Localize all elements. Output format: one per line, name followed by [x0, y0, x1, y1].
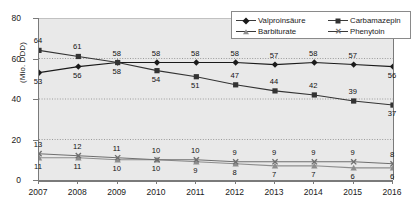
- data-point-label: 13: [25, 141, 51, 149]
- legend-row-1: Valproinsäure Carbamazepin: [236, 15, 406, 26]
- data-point-label: 42: [300, 82, 326, 90]
- data-point-marker: [194, 74, 199, 79]
- series-line-valproinsaure: [39, 63, 393, 73]
- data-point-marker: [350, 61, 356, 67]
- data-point-marker: [115, 60, 120, 65]
- data-point-label: 61: [64, 43, 90, 51]
- data-point-label: 58: [104, 50, 130, 58]
- data-point-label: 44: [261, 78, 287, 86]
- data-point-marker: [193, 59, 199, 65]
- x-axis-tick-mark: [117, 180, 118, 184]
- data-point-label: 47: [222, 72, 248, 80]
- x-axis-tick-label: 2007: [18, 187, 58, 197]
- data-point-label: 39: [340, 88, 366, 96]
- y-axis-tick-label: 60: [0, 55, 21, 63]
- legend-item-carbamazepin[interactable]: Carbamazepin: [328, 15, 401, 26]
- data-point-label: 9: [261, 149, 287, 157]
- data-point-marker: [390, 102, 393, 107]
- chart-legend: Valproinsäure Carbamazepin Barbiturate ✕: [231, 11, 411, 39]
- x-axis-tick-mark: [274, 180, 275, 184]
- x-axis-tick-label: 2014: [293, 187, 333, 197]
- data-point-label: 53: [25, 78, 51, 86]
- x-axis-tick-mark: [195, 180, 196, 184]
- legend-item-phenytoin[interactable]: ✕ Phenytoin: [328, 26, 385, 37]
- data-point-label: 9: [340, 149, 366, 157]
- diamond-marker-icon: [236, 16, 256, 25]
- y-axis-tick-label: 40: [0, 95, 21, 103]
- data-point-label: 58: [104, 68, 130, 76]
- data-point-label: 51: [182, 82, 208, 90]
- data-point-label: 64: [25, 37, 51, 45]
- data-point-label: 10: [104, 165, 130, 173]
- data-point-marker: [39, 48, 42, 53]
- data-point-marker: [154, 68, 159, 73]
- data-point-marker: [75, 63, 81, 69]
- data-point-marker: [76, 54, 81, 59]
- x-axis-tick-label: 2012: [215, 187, 255, 197]
- data-point-label: 10: [143, 165, 169, 173]
- x-axis-tick-label: 2016: [372, 187, 412, 197]
- data-point-label: 8: [379, 151, 405, 159]
- x-axis-tick-label: 2013: [254, 187, 294, 197]
- x-axis-tick-label: 2015: [333, 187, 373, 197]
- data-point-label: 11: [25, 163, 51, 171]
- legend-label-barbiturate: Barbiturate: [256, 27, 296, 36]
- chart-container: (Mio. DDD) 020406080 2007200820092010201…: [0, 0, 416, 202]
- data-point-label: 10: [182, 147, 208, 155]
- data-point-label: 58: [182, 50, 208, 58]
- data-point-label: 37: [379, 110, 405, 118]
- data-point-label: 54: [143, 76, 169, 84]
- data-point-label: 56: [64, 72, 90, 80]
- x-marker-icon: ✕: [328, 27, 348, 36]
- data-point-marker: [232, 59, 238, 65]
- y-axis-tick-label: 20: [0, 136, 21, 144]
- data-point-label: 9: [300, 149, 326, 157]
- x-axis-tick-label: 2011: [175, 187, 215, 197]
- data-point-label: 12: [64, 143, 90, 151]
- legend-label-carbamazepin: Carbamazepin: [348, 16, 401, 25]
- series-line-barbiturate: [39, 158, 393, 168]
- data-point-marker: [272, 61, 278, 67]
- legend-label-phenytoin: Phenytoin: [348, 27, 385, 36]
- x-axis-tick-mark: [156, 180, 157, 184]
- x-axis-tick-mark: [313, 180, 314, 184]
- data-point-label: 56: [379, 72, 405, 80]
- data-point-label: 57: [340, 52, 366, 60]
- data-point-label: 7: [261, 171, 287, 179]
- data-point-label: 7: [300, 171, 326, 179]
- legend-item-valproinsaure[interactable]: Valproinsäure: [236, 15, 328, 26]
- data-point-label: 6: [340, 173, 366, 181]
- legend-row-2: Barbiturate ✕ Phenytoin: [236, 26, 406, 37]
- data-point-marker: [312, 92, 317, 97]
- data-point-marker: [233, 82, 238, 87]
- x-axis-tick-label: 2008: [57, 187, 97, 197]
- data-point-label: 10: [143, 147, 169, 155]
- y-axis-tick-label: 80: [0, 14, 21, 22]
- data-point-label: 58: [143, 50, 169, 58]
- triangle-marker-icon: [236, 27, 256, 36]
- x-axis-tick-label: 2010: [136, 187, 176, 197]
- data-point-label: 11: [104, 145, 130, 153]
- data-point-label: 11: [64, 163, 90, 171]
- x-axis-tick-label: 2009: [97, 187, 137, 197]
- data-point-label: 58: [300, 50, 326, 58]
- data-point-label: 57: [261, 52, 287, 60]
- data-point-marker: [154, 59, 160, 65]
- data-point-marker: [39, 69, 42, 75]
- data-point-marker: [390, 63, 393, 69]
- data-point-marker: [351, 98, 356, 103]
- data-point-marker: [272, 88, 277, 93]
- x-axis-tick-mark: [38, 180, 39, 184]
- x-axis-tick-mark: [77, 180, 78, 184]
- data-point-marker: [311, 59, 317, 65]
- square-marker-icon: [328, 16, 348, 25]
- data-point-label: 58: [222, 50, 248, 58]
- data-point-label: 6: [379, 173, 405, 181]
- legend-label-valproinsaure: Valproinsäure: [256, 16, 306, 25]
- data-point-label: 9: [222, 149, 248, 157]
- data-point-label: 9: [182, 167, 208, 175]
- legend-item-barbiturate[interactable]: Barbiturate: [236, 26, 328, 37]
- data-point-label: 8: [222, 169, 248, 177]
- y-axis-tick-label: 0: [0, 176, 21, 184]
- x-axis-tick-mark: [235, 180, 236, 184]
